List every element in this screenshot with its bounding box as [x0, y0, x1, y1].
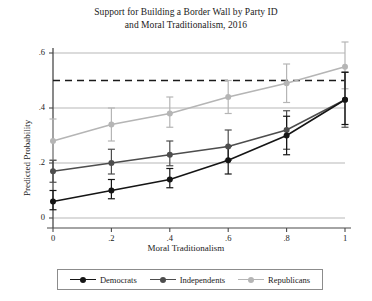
- series-line-independents: [53, 100, 345, 172]
- chart-figure: Support for Building a Border Wall by Pa…: [0, 0, 372, 301]
- series-errorbars-republicans: [50, 42, 349, 160]
- series-markers-republicans: [50, 64, 348, 144]
- legend-label-democrats: Democrats: [100, 275, 137, 285]
- legend-entry-independents[interactable]: Independents: [150, 275, 225, 285]
- legend-marker-democrats: [70, 275, 96, 284]
- series-markers-independents: [50, 97, 348, 175]
- plot-area: [0, 0, 372, 301]
- legend-marker-republicans: [238, 275, 264, 284]
- legend-label-republicans: Republicans: [268, 275, 310, 285]
- series-line-republicans: [53, 67, 345, 141]
- chart-legend: DemocratsIndependentsRepublicans: [57, 269, 323, 290]
- series-errorbars-democrats: [50, 72, 349, 210]
- legend-label-independents: Independents: [180, 275, 225, 285]
- legend-entry-democrats[interactable]: Democrats: [70, 275, 137, 285]
- legend-marker-independents: [150, 275, 176, 284]
- legend-entry-republicans[interactable]: Republicans: [238, 275, 310, 285]
